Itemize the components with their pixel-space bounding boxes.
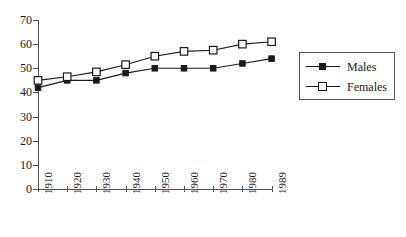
legend-label-males: Males xyxy=(347,59,376,75)
filled-square-marker xyxy=(123,70,129,76)
legend-item-males: Males xyxy=(306,59,394,75)
filled-square-marker xyxy=(181,66,187,72)
open-square-marker xyxy=(34,77,42,85)
legend-label-females: Females xyxy=(347,79,387,95)
filled-square-marker xyxy=(94,78,100,84)
open-square-icon xyxy=(318,82,327,91)
open-square-marker xyxy=(63,73,70,81)
series-line xyxy=(38,42,272,81)
open-square-marker xyxy=(180,48,188,56)
filled-square-marker xyxy=(152,66,158,72)
open-square-marker xyxy=(209,46,217,54)
open-square-marker xyxy=(122,61,130,69)
data-series-layer xyxy=(0,0,406,237)
series-line xyxy=(38,59,272,88)
filled-square-marker xyxy=(210,66,216,72)
open-square-marker xyxy=(268,38,276,46)
plot-area: 010203040506070 191019201930194019501960… xyxy=(0,0,406,237)
filled-square-marker xyxy=(269,56,275,62)
legend-item-females: Females xyxy=(306,79,394,95)
filled-square-icon xyxy=(319,63,326,70)
filled-square-marker xyxy=(35,85,41,91)
chart-figure: 010203040506070 191019201930194019501960… xyxy=(0,0,406,237)
open-square-marker xyxy=(93,68,101,76)
chart-legend: Males Females xyxy=(299,52,395,100)
filled-square-marker xyxy=(240,61,246,66)
open-square-marker xyxy=(151,52,159,60)
open-square-marker xyxy=(239,40,247,48)
